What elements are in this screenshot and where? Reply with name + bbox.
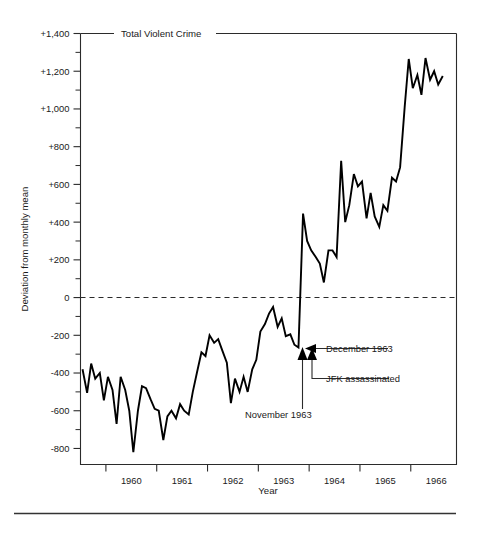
x-tick-label-1964: 1964 <box>324 475 345 486</box>
x-tick-label-1960: 1960 <box>121 475 142 486</box>
y-axis-title: Deviation from monthly mean <box>19 187 30 312</box>
series-label: Total Violent Crime <box>121 28 201 39</box>
annotation-december-1963: December 1963 <box>305 343 393 354</box>
x-tick-label-1963: 1963 <box>273 475 294 486</box>
y-tick-label--800: -800 <box>51 443 70 454</box>
x-axis-title: Year <box>258 485 278 496</box>
y-tick-label-1000: +1,000 <box>41 103 70 114</box>
plot-frame <box>81 34 457 465</box>
y-tick-label-200: +200 <box>48 254 69 265</box>
x-tick-label-1962: 1962 <box>223 475 244 486</box>
y-tick-label-1200: +1,200 <box>41 66 70 77</box>
violent-crime-data-line <box>83 58 443 452</box>
jfk-assassinated-label: JFK assassinated <box>326 373 400 384</box>
y-tick-label--200: -200 <box>51 330 70 341</box>
annotation-november-1963: November 1963 <box>245 347 312 420</box>
y-tick-label--400: -400 <box>51 367 70 378</box>
y-tick-label-800: +800 <box>48 141 69 152</box>
y-tick-label-1400: +1,400 <box>41 28 70 39</box>
december-1963-label: December 1963 <box>326 343 393 354</box>
y-tick-label-400: +400 <box>48 217 69 228</box>
x-axis-tick-labels: 1960196119621963196419651966 <box>121 475 447 486</box>
x-tick-label-1961: 1961 <box>172 475 193 486</box>
x-axis-ticks <box>106 465 411 472</box>
november-1963-label: November 1963 <box>245 409 312 420</box>
y-tick-label--600: -600 <box>51 405 70 416</box>
x-tick-label-1965: 1965 <box>375 475 396 486</box>
y-tick-label-600: +600 <box>48 179 69 190</box>
y-tick-label-0: 0 <box>64 292 69 303</box>
y-axis-tick-labels: +1,400+1,200+1,000+800+600+400+2000-200-… <box>41 28 70 454</box>
violent-crime-time-series-figure: +1,400+1,200+1,000+800+600+400+2000-200-… <box>0 0 485 534</box>
x-tick-label-1966: 1966 <box>426 475 447 486</box>
